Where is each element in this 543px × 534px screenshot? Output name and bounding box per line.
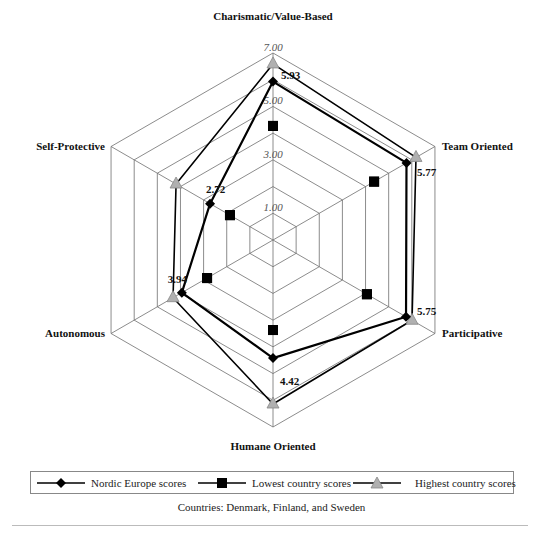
square-marker-icon (225, 210, 235, 220)
tick-label: 3.00 (262, 148, 283, 160)
chart-caption: Countries: Denmark, Finland, and Sweden (0, 501, 543, 513)
axis-labels: Charismatic/Value-BasedTeam OrientedPart… (36, 10, 513, 452)
legend: Nordic Europe scores Lowest country scor… (30, 471, 514, 494)
square-marker-icon (198, 477, 246, 489)
legend-item-lowest: Lowest country scores (198, 472, 351, 493)
axis-spoke (111, 147, 273, 241)
triangle-marker-icon (353, 477, 401, 489)
value-label: 2.72 (206, 183, 226, 195)
legend-label: Lowest country scores (252, 477, 351, 489)
diamond-marker-icon (401, 158, 411, 168)
divider (12, 525, 528, 526)
series-triangle (167, 57, 422, 408)
axis-label: Autonomous (45, 327, 106, 339)
square-marker-icon (362, 289, 372, 299)
diamond-marker-icon (268, 77, 278, 87)
radar-chart: 1.003.005.007.00 Charismatic/Value-Based… (0, 0, 543, 470)
legend-label: Highest country scores (415, 477, 516, 489)
diamond-marker-icon (37, 477, 85, 489)
series-diamond (177, 77, 412, 363)
square-marker-icon (268, 325, 278, 335)
axis-label: Charismatic/Value-Based (213, 10, 332, 22)
tick-label: 7.00 (263, 41, 283, 53)
square-marker-icon (202, 273, 212, 283)
value-label: 5.93 (281, 69, 301, 81)
diamond-marker-icon (205, 199, 215, 209)
axis-label: Humane Oriented (230, 440, 315, 452)
value-label: 5.77 (417, 166, 437, 178)
legend-item-highest: Highest country scores (353, 472, 516, 493)
tick-label: 1.00 (263, 201, 283, 213)
axis-label: Team Oriented (442, 140, 513, 152)
axis-spoke (111, 240, 273, 334)
axis-label: Self-Protective (36, 140, 105, 152)
radar-spokes (111, 53, 435, 427)
axis-label: Participative (442, 327, 503, 339)
triangle-marker-icon (410, 150, 422, 161)
legend-item-nordic: Nordic Europe scores (37, 472, 186, 493)
data-series (167, 57, 422, 408)
legend-label: Nordic Europe scores (91, 477, 186, 489)
square-marker-icon (369, 177, 379, 187)
value-label: 3.94 (168, 273, 188, 285)
value-label: 4.42 (280, 375, 300, 387)
square-marker-icon (268, 121, 278, 131)
value-labels: 5.935.775.754.423.942.72 (168, 69, 437, 387)
value-label: 5.75 (417, 305, 437, 317)
series-square (202, 121, 379, 335)
triangle-marker-icon (267, 57, 279, 68)
